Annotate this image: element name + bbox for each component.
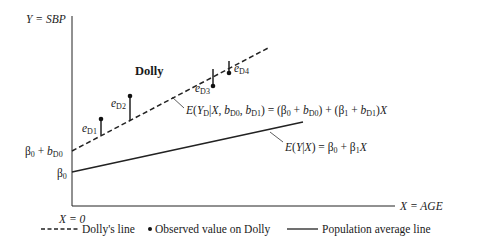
population-eq-leader	[270, 132, 283, 142]
subject-label: Dolly	[135, 65, 163, 78]
residual-label-d1: eD1	[82, 123, 97, 136]
population-equation: E(Y|X) = β0 + β1X	[285, 142, 367, 155]
legend-dot-symbol	[148, 227, 152, 231]
population-intercept-label: β0	[57, 168, 67, 181]
legend-dolly-line: Dolly's line	[82, 224, 135, 236]
dolly-equation: E(YD|X, bD0, bD1) = (β0 + bD0) + (β1 + b…	[186, 105, 387, 118]
legend-population-line: Population average line	[322, 224, 431, 236]
residual-label-d2: eD2	[111, 98, 126, 111]
dolly-eq-leader	[172, 97, 184, 108]
residual-label-d3: eD3	[195, 83, 210, 96]
dolly-intercept-label: β0 + bD0	[25, 146, 63, 159]
y-axis-label: Y = SBP	[26, 14, 66, 26]
population-line	[72, 122, 303, 172]
x-axis-label: X = AGE	[400, 201, 443, 213]
legend-observed-value: Observed value on Dolly	[155, 224, 270, 236]
residual-label-d4: eD4	[234, 63, 249, 76]
